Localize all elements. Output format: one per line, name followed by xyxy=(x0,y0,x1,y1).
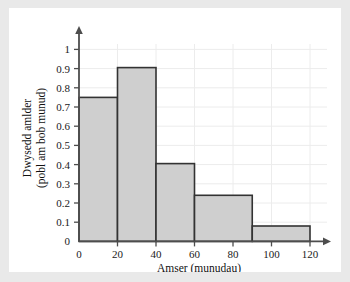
bar-0-20 xyxy=(79,97,118,241)
y-tick-label: 0.3 xyxy=(56,178,70,190)
y-axis-title: Dwysedd amlder (pobl am bob munud) xyxy=(21,88,48,188)
x-tick-label: 60 xyxy=(189,248,201,260)
y-axis-title-line2: (pobl am bob munud) xyxy=(35,88,48,188)
y-tick-label: 0.4 xyxy=(56,159,70,171)
bar-90-120 xyxy=(252,226,310,241)
y-tick-label: 0 xyxy=(65,235,71,247)
x-tick-labels: 0 20 40 60 80 100 120 xyxy=(76,248,319,260)
histogram-svg: 0 0.1 0.2 0.3 0.4 0.5 0.6 0.7 0.8 0.9 1 … xyxy=(9,8,341,272)
x-tick-label: 20 xyxy=(112,248,124,260)
bar-60-90 xyxy=(195,195,253,241)
y-tick-labels: 0 0.1 0.2 0.3 0.4 0.5 0.6 0.7 0.8 0.9 1 xyxy=(56,43,70,247)
figure-container: 0 0.1 0.2 0.3 0.4 0.5 0.6 0.7 0.8 0.9 1 … xyxy=(0,0,350,282)
x-tick-label: 80 xyxy=(228,248,240,260)
y-tick-label: 0.2 xyxy=(56,197,70,209)
y-tick-label: 0.8 xyxy=(56,82,70,94)
y-tick-label: 0.5 xyxy=(56,139,70,151)
x-tick-label: 120 xyxy=(302,248,319,260)
y-tick-label: 0.1 xyxy=(56,216,70,228)
bar-40-60 xyxy=(156,164,195,242)
y-tick-label: 0.6 xyxy=(56,120,70,132)
y-axis-title-line1: Dwysedd amlder xyxy=(21,99,34,177)
y-tick-label: 0.9 xyxy=(56,63,70,75)
y-tick-label: 1 xyxy=(65,43,71,55)
y-tick-label: 0.7 xyxy=(56,101,70,113)
x-axis-title: Amser (munudau) xyxy=(157,262,241,272)
x-tick-label: 0 xyxy=(76,248,82,260)
bar-20-40 xyxy=(118,68,157,242)
x-tick-label: 40 xyxy=(151,248,163,260)
chart-white-panel: 0 0.1 0.2 0.3 0.4 0.5 0.6 0.7 0.8 0.9 1 … xyxy=(9,8,341,272)
x-tick-label: 100 xyxy=(263,248,280,260)
histogram-chart: 0 0.1 0.2 0.3 0.4 0.5 0.6 0.7 0.8 0.9 1 … xyxy=(9,8,341,272)
